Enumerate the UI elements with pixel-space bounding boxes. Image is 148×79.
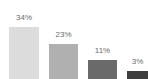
- bar-value-label-2: 23%: [55, 30, 71, 39]
- bar-value-label-3: 11%: [95, 46, 110, 55]
- bar-chart: 34% 23% 11% 3%: [0, 0, 148, 79]
- bar-group-1[interactable]: 34%: [9, 0, 39, 79]
- bar-group-2[interactable]: 23%: [49, 0, 78, 79]
- bar-group-3[interactable]: 11%: [88, 0, 117, 79]
- bar-4[interactable]: [127, 71, 148, 79]
- bar-value-label-4: 3%: [132, 57, 144, 66]
- bar-group-4[interactable]: 3%: [127, 0, 148, 79]
- bar-1[interactable]: [9, 27, 39, 79]
- bar-2[interactable]: [49, 44, 78, 79]
- plot-area: 34% 23% 11% 3%: [0, 0, 148, 79]
- bar-value-label-1: 34%: [16, 13, 32, 22]
- bar-3[interactable]: [88, 60, 117, 79]
